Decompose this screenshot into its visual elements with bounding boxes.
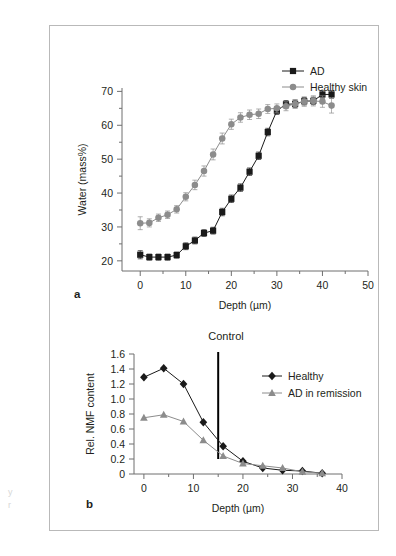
x-tick-label: 20 — [225, 279, 237, 291]
data-point — [183, 194, 190, 201]
panel-b-chart: Control00.20.40.60.81.01.21.41.601020304… — [50, 316, 380, 530]
panel-a: 20304050607001020304050Depth (µm)Water (… — [50, 26, 380, 316]
data-point — [319, 98, 326, 105]
data-point — [155, 215, 162, 222]
data-point — [160, 411, 168, 418]
panel-a-series-ad — [137, 91, 335, 260]
data-point — [301, 98, 308, 105]
panel-b-letter: b — [86, 498, 93, 510]
data-point — [160, 364, 168, 373]
data-point — [246, 169, 252, 175]
data-point — [219, 452, 227, 459]
y-tick-label: 0.6 — [110, 423, 125, 435]
data-point — [210, 151, 217, 158]
x-tick-label: 40 — [336, 482, 348, 494]
y-tick-label: 40 — [101, 187, 113, 199]
panel-a-axes: 20304050607001020304050Depth (µm)Water (… — [76, 85, 374, 311]
data-point — [219, 135, 226, 142]
data-point — [265, 106, 272, 113]
x-tick-label: 40 — [317, 279, 329, 291]
data-point — [310, 98, 317, 105]
y-tick-label: 50 — [101, 153, 113, 165]
y-tick-label: 20 — [101, 255, 113, 267]
data-point — [228, 196, 234, 202]
panel-b-series-ad-in-remission — [140, 411, 326, 477]
y-tick-label: 30 — [101, 221, 113, 233]
x-tick-label: 30 — [271, 279, 283, 291]
data-point — [265, 129, 271, 135]
y-tick-label: 1.2 — [110, 378, 125, 390]
data-point — [201, 230, 207, 236]
y-tick-label: 0.2 — [110, 453, 125, 465]
panel-a-legend: ADHealthy skin — [282, 65, 367, 93]
legend-label: Healthy — [288, 370, 324, 382]
x-tick-label: 20 — [237, 482, 249, 494]
data-point — [146, 254, 152, 260]
y-tick-label: 0.4 — [110, 438, 125, 450]
data-point — [328, 102, 335, 109]
x-tick-label: 0 — [141, 482, 147, 494]
legend-label: Healthy skin — [310, 81, 367, 93]
data-point — [137, 252, 143, 258]
data-point — [237, 185, 243, 191]
y-tick-label: 1.6 — [110, 348, 125, 360]
data-point — [255, 111, 262, 118]
legend-label: AD — [310, 65, 325, 77]
data-point — [174, 252, 180, 258]
panel-a-series-healthy-skin — [137, 96, 335, 230]
figure-frame: 20304050607001020304050Depth (µm)Water (… — [49, 25, 379, 531]
series-line — [144, 368, 322, 473]
data-point — [137, 220, 144, 227]
margin-text-fragment-1: r — [8, 500, 11, 510]
legend-marker — [268, 372, 276, 381]
y-tick-label: 0.8 — [110, 408, 125, 420]
data-point — [155, 254, 161, 260]
panel-a-chart: 20304050607001020304050Depth (µm)Water (… — [50, 26, 380, 316]
data-point — [201, 168, 208, 175]
y-tick-label: 1.4 — [110, 363, 125, 375]
y-tick-label: 0 — [119, 468, 125, 480]
data-point — [183, 243, 189, 249]
series-line — [144, 415, 322, 474]
margin-text-fragment-0: y — [8, 487, 13, 497]
y-tick-label: 70 — [101, 85, 113, 97]
data-point — [164, 211, 171, 218]
legend-marker — [290, 84, 297, 91]
data-point — [228, 121, 235, 128]
series-line — [140, 101, 331, 223]
data-point — [274, 105, 281, 112]
x-tick-label: 0 — [137, 279, 143, 291]
x-tick-label: 10 — [180, 279, 192, 291]
data-point — [210, 228, 216, 234]
x-axis-title: Depth (µm) — [212, 502, 265, 514]
y-tick-label: 60 — [101, 119, 113, 131]
legend-marker — [290, 68, 296, 74]
panel-b: Control00.20.40.60.81.01.21.41.601020304… — [50, 316, 380, 530]
data-point — [192, 182, 199, 189]
data-point — [146, 220, 153, 227]
y-tick-label: 1.0 — [110, 393, 125, 405]
y-axis-title: Water (mass%) — [76, 144, 88, 216]
x-tick-label: 30 — [287, 482, 299, 494]
data-point — [237, 114, 244, 121]
panel-b-legend: HealthyAD in remission — [262, 370, 362, 399]
data-point — [256, 153, 262, 159]
x-tick-label: 50 — [362, 279, 374, 291]
series-line — [140, 94, 331, 257]
data-point — [283, 103, 290, 110]
x-tick-label: 10 — [188, 482, 200, 494]
data-point — [219, 209, 225, 215]
data-point — [140, 373, 148, 382]
y-axis-title: Rel. NMF content — [84, 373, 96, 455]
x-axis-title: Depth (µm) — [219, 299, 272, 311]
figure-page: 20304050607001020304050Depth (µm)Water (… — [0, 0, 396, 556]
data-point — [292, 101, 299, 108]
data-point — [246, 112, 253, 119]
legend-label: AD in remission — [288, 387, 362, 399]
data-point — [192, 237, 198, 243]
data-point — [180, 380, 188, 389]
panel-a-letter: a — [74, 288, 81, 300]
data-point — [173, 206, 180, 213]
data-point — [164, 254, 170, 260]
panel-b-title: Control — [208, 330, 243, 342]
